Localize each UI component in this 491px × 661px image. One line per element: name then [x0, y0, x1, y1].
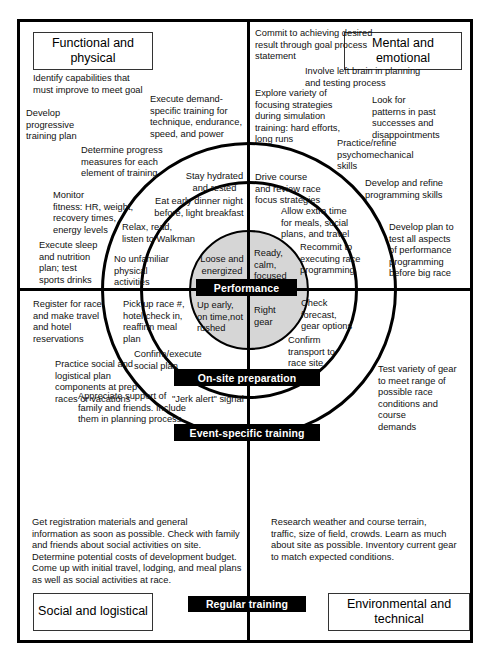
text-onsite-fp-4: No unfamiliarphysicalactivities: [114, 254, 194, 289]
text-regular-me-3: Look forpatterns in pastsuccesses anddis…: [372, 95, 477, 141]
text-regular-me-2: Involve left brain in planningand testin…: [305, 66, 475, 89]
text-onsite-fp-1: Stay hydratedand rested: [167, 171, 262, 194]
text-event-me-4: Develop plan totest all aspectsof perfor…: [389, 222, 487, 280]
banner-label: Regular training: [206, 598, 288, 610]
text-onsite-me-1: Drive courseand review racefocus strateg…: [255, 172, 347, 207]
text-onsite-fp-2: Eat early dinner nightbefore, light brea…: [135, 196, 263, 219]
text-event-et-1: Test variety of gearto meet range ofposs…: [378, 364, 483, 433]
text-onsite-me-2: Allow extra timefor meals, socialplans, …: [281, 206, 379, 241]
quadrant-title-functional-physical: Functional and physical: [33, 32, 153, 70]
quadrant-title-environmental-technical: Environmental and technical: [328, 593, 470, 631]
quadrant-title-label: Social and logistical: [38, 604, 148, 619]
text-core-social-logistical: Up early,on time,notrushed: [197, 300, 251, 335]
text-event-me-1: Explore variety offocusing strategiesdur…: [255, 88, 365, 146]
text-event-me-3: Develop and refineprogramming skills: [365, 178, 485, 201]
text-event-me-2: Practice/refinepsychomechanicalskills: [337, 138, 445, 173]
banner-on-site-preparation: On-site preparation: [174, 369, 320, 386]
quadrant-title-social-logistical: Social and logistical: [33, 593, 153, 631]
banner-event-specific-training: Event-specific training: [174, 424, 320, 441]
quadrant-title-label: Functional and physical: [34, 36, 152, 67]
banner-performance: Performance: [196, 279, 297, 296]
text-onsite-me-3: Recommit toexecuting raceprogramming: [300, 242, 390, 277]
diagram-canvas: Functional and physical Mental and emoti…: [0, 0, 491, 661]
text-onsite-et-2: Confirmtransport torace site: [288, 335, 360, 370]
text-regular-fp-2: Developprogressivetraining plan: [26, 108, 116, 143]
banner-label: Performance: [214, 282, 279, 294]
text-regular-fp-1: Identify capabilities thatmust improve t…: [33, 73, 193, 96]
text-event-sl-4: "Jerk alert" signal: [172, 394, 272, 406]
text-core-mental-emotional: Ready,calm,focused: [254, 248, 302, 283]
text-event-fp-1: Execute demand-specific training fortech…: [150, 94, 260, 140]
text-core-functional-physical: Loose andenergized: [196, 254, 248, 277]
text-onsite-fp-3: Relax, read,listen to Walkman: [122, 222, 227, 245]
quadrant-title-label: Environmental and technical: [329, 597, 469, 628]
banner-regular-training: Regular training: [188, 596, 306, 612]
text-onsite-sl-1: Pick up race #,hotel check in,reaffirm m…: [123, 299, 205, 345]
text-regular-et-1: Research weather and course terrain,traf…: [271, 517, 471, 563]
text-regular-me-1: Commit to achieving desiredresult throug…: [255, 28, 415, 63]
text-regular-sl-1: Get registration materials and generalin…: [32, 517, 247, 586]
text-core-environmental-technical: Rightgear: [254, 305, 296, 328]
banner-label: On-site preparation: [198, 372, 297, 384]
banner-label: Event-specific training: [190, 427, 305, 439]
text-onsite-et-1: Checkforecast,gear options: [301, 298, 381, 333]
text-event-sl-1: Register for raceand make traveland hote…: [33, 299, 133, 345]
